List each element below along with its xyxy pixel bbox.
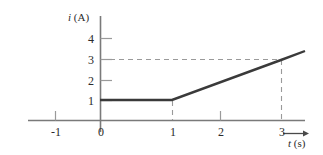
figure-container: 4 3 2 1 -1 0 1 2 3 i (A) t (s) — [0, 0, 323, 155]
y-axis-unit: (A) — [74, 11, 89, 23]
x-axis-symbol: t — [288, 137, 291, 149]
data-line-current — [100, 51, 305, 100]
x-tick-label-minus1: -1 — [44, 126, 68, 138]
y-tick-label-2: 2 — [72, 75, 94, 87]
y-tick-label-4: 4 — [72, 33, 94, 45]
x-tick-label-2: 2 — [209, 126, 233, 138]
y-axis-title: i (A) — [68, 12, 89, 23]
y-tick-label-1: 1 — [72, 95, 94, 107]
y-axis-symbol: i — [68, 11, 71, 23]
x-tick-label-0: 0 — [89, 126, 113, 138]
y-tick-label-3: 3 — [72, 54, 94, 66]
x-axis-title: t (s) — [288, 138, 305, 149]
x-axis-arrow-head — [303, 131, 309, 137]
x-tick-label-1: 1 — [161, 126, 185, 138]
x-axis-unit: (s) — [294, 137, 306, 149]
